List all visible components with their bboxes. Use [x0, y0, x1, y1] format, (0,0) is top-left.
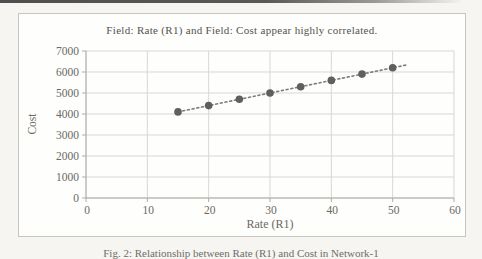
y-tick-label: 1000 — [56, 171, 79, 183]
y-tick-label: 0 — [73, 192, 79, 204]
x-tick-label: 50 — [388, 204, 400, 216]
x-tick-label: 20 — [204, 204, 216, 216]
data-point — [297, 83, 305, 91]
scan-edge-artifact — [0, 0, 482, 3]
data-point — [266, 89, 274, 97]
x-tick-label: 10 — [143, 204, 155, 216]
x-axis-title: Rate (R1) — [86, 217, 454, 232]
y-tick-label: 3000 — [56, 129, 79, 141]
scatter-plot: 0102030405060010002000300040005000600070… — [19, 14, 465, 236]
chart-container: Field: Rate (R1) and Field: Cost appear … — [18, 13, 466, 237]
y-tick-label: 5000 — [56, 87, 79, 99]
x-tick-label: 0 — [84, 204, 90, 216]
data-point — [205, 102, 213, 110]
y-tick-label: 6000 — [56, 66, 79, 78]
data-point — [174, 108, 182, 116]
data-point — [358, 70, 366, 78]
data-point — [236, 96, 244, 104]
figure-caption: Fig. 2: Relationship between Rate (R1) a… — [0, 247, 482, 259]
x-tick-label: 30 — [265, 204, 277, 216]
y-axis-title: Cost — [26, 113, 38, 134]
data-point — [328, 77, 336, 85]
y-tick-label: 2000 — [56, 150, 79, 162]
y-tick-label: 7000 — [56, 45, 79, 57]
x-tick-label: 40 — [327, 204, 339, 216]
y-tick-label: 4000 — [56, 108, 79, 120]
x-tick-label: 60 — [449, 204, 461, 216]
data-point — [389, 64, 397, 72]
